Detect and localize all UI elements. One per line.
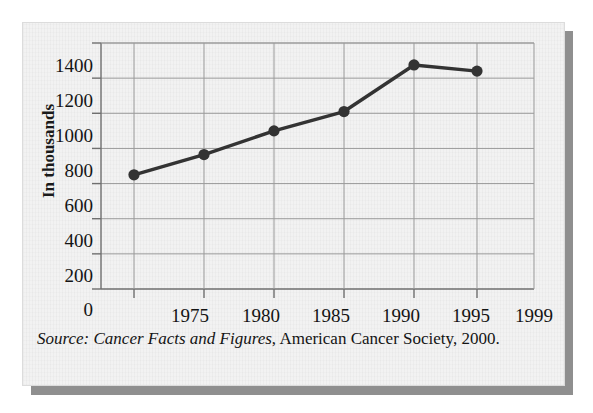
data-point-marker — [198, 149, 209, 160]
figure-shadow-bottom — [31, 386, 573, 395]
source-caption: Source: Cancer Facts and Figures, Americ… — [37, 328, 537, 350]
source-rest: , American Cancer Society, 2000. — [272, 329, 500, 348]
source-title: Cancer Facts and Figures — [89, 329, 272, 348]
data-point-marker — [268, 125, 279, 136]
data-point-marker — [408, 59, 419, 70]
source-label: Source: — [37, 329, 89, 348]
data-point-marker — [471, 66, 482, 77]
data-point-marker — [338, 106, 349, 117]
data-point-marker — [128, 169, 139, 180]
figure-shadow-right — [565, 31, 573, 395]
data-series-line — [134, 65, 477, 175]
chart-plot-area — [23, 23, 566, 323]
figure-panel: In thousands 1400 1200 1000 800 600 400 … — [22, 22, 565, 386]
